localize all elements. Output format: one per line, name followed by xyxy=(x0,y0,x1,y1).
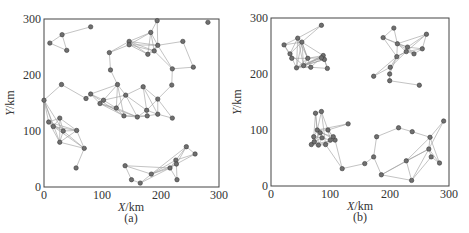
graph-edge xyxy=(76,148,84,168)
graph-node xyxy=(319,56,323,60)
graph-edge xyxy=(158,45,173,69)
xtick-200: 200 xyxy=(152,188,170,202)
graph-node xyxy=(156,112,160,116)
graph-node xyxy=(135,115,139,119)
graph-node xyxy=(312,135,316,139)
graph-node xyxy=(129,178,133,182)
graph-edge xyxy=(148,32,151,54)
graph-node xyxy=(309,65,313,69)
xtick-100: 100 xyxy=(321,187,339,201)
graph-node xyxy=(417,83,421,87)
graph-node xyxy=(312,140,316,144)
graph-node xyxy=(58,116,62,120)
graph-node xyxy=(48,41,52,45)
graph-node xyxy=(395,42,399,46)
panel-label-a: (a) xyxy=(124,211,137,225)
graph-edge xyxy=(143,87,158,99)
graph-node xyxy=(51,124,55,128)
graph-edge xyxy=(342,164,365,169)
graph-edge xyxy=(129,32,151,41)
graph-edge xyxy=(298,25,322,38)
graph-node xyxy=(319,23,323,27)
graph-edge xyxy=(290,38,298,54)
panel-label-b: (b) xyxy=(353,210,367,224)
graph-node xyxy=(300,40,304,44)
graph-edge xyxy=(158,41,183,45)
graph-edge xyxy=(314,113,316,137)
graph-edge xyxy=(317,124,348,130)
graph-node xyxy=(288,52,292,56)
graph-edge xyxy=(374,137,377,157)
graph-edge xyxy=(374,157,382,175)
graph-edge xyxy=(129,45,148,55)
edges-b xyxy=(284,25,444,180)
ytick-200: 200 xyxy=(250,67,268,81)
graph-node xyxy=(149,172,153,176)
graph-node xyxy=(156,97,160,101)
graph-edge xyxy=(317,112,321,130)
ytick-200: 200 xyxy=(23,68,41,82)
graph-edge xyxy=(157,21,158,46)
graph-edge xyxy=(328,124,348,130)
graph-node xyxy=(282,43,286,47)
graph-node xyxy=(138,181,142,185)
graph-node xyxy=(84,96,88,100)
graph-node xyxy=(319,109,323,113)
graph-node xyxy=(428,135,432,139)
graph-node xyxy=(363,161,367,165)
y-ticks-b: 0 100 200 300 xyxy=(250,11,268,193)
graph-node xyxy=(88,25,92,29)
graph-node xyxy=(441,119,445,123)
graph-edge xyxy=(109,41,129,52)
graph-node xyxy=(101,98,105,102)
graph-node xyxy=(316,143,320,147)
graph-node xyxy=(420,47,424,51)
ytick-300: 300 xyxy=(23,12,41,26)
graph-edge xyxy=(412,132,430,138)
graph-node xyxy=(144,108,148,112)
graph-node xyxy=(404,159,408,163)
graph-edge xyxy=(154,51,172,69)
graph-node xyxy=(82,146,86,150)
graph-node xyxy=(60,32,64,36)
graph-edge xyxy=(302,25,322,42)
graph-edge xyxy=(109,53,110,70)
graph-node xyxy=(152,49,156,53)
graph-node xyxy=(290,56,294,60)
graph-node xyxy=(427,147,431,151)
graph-node xyxy=(175,178,179,182)
graph-node xyxy=(191,65,195,69)
xtick-200: 200 xyxy=(381,187,399,201)
ytick-300: 300 xyxy=(250,11,268,25)
graph-node xyxy=(181,39,185,43)
graph-node xyxy=(127,43,131,47)
graph-edge xyxy=(100,104,137,117)
graph-edge xyxy=(377,128,399,137)
ytick-0: 0 xyxy=(35,180,41,194)
graph-node xyxy=(146,52,150,56)
y-axis-label-b: Y/km xyxy=(230,89,244,115)
graph-node xyxy=(371,74,375,78)
graph-node xyxy=(294,66,298,70)
graph-node xyxy=(388,65,392,69)
graph-node xyxy=(123,164,127,168)
graph-node xyxy=(374,135,378,139)
graph-node xyxy=(409,178,413,182)
graph-node xyxy=(404,49,408,53)
graph-node xyxy=(412,52,416,56)
panel-a: 0 100 200 300 0 100 200 300 X/km Y/km (a… xyxy=(3,12,228,225)
graph-node xyxy=(395,54,399,58)
graph-edge xyxy=(116,85,117,109)
graph-edge xyxy=(158,85,172,99)
graph-node xyxy=(206,20,210,24)
graph-edge xyxy=(381,175,411,181)
graph-node xyxy=(379,173,383,177)
graph-node xyxy=(149,30,153,34)
graph-node xyxy=(156,43,160,47)
graph-node xyxy=(115,82,119,86)
graph-node xyxy=(65,48,69,52)
graph-node xyxy=(313,111,317,115)
graph-node xyxy=(193,152,197,156)
graph-node xyxy=(346,122,350,126)
xtick-0: 0 xyxy=(268,187,274,201)
